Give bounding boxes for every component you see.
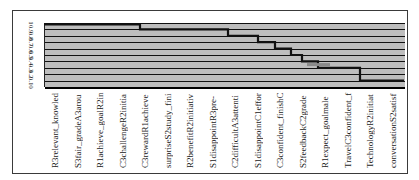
x-tick-label: TechnologyR2initiat (365, 90, 375, 168)
x-tick-label: R2benefitR2initiativ (185, 90, 195, 168)
step-line (44, 23, 406, 89)
x-tick-label: R1expect_goalmale (320, 90, 330, 168)
x-tick-label: surpriseS2study_fini (163, 90, 173, 168)
x-tick-label: C3challengeR2initia (118, 90, 128, 168)
x-tick-label: conversationS2satisf (388, 90, 398, 168)
x-tick-label: S1disappointR3pre- (208, 90, 218, 168)
x-tick-label: S3fair_gradeA3arou (73, 90, 83, 168)
x-tick-label: S2feedbackC2grade (298, 90, 308, 168)
x-tick-label: C3confident_finishC (275, 90, 285, 168)
x-tick-label: TravelC3confident_f (343, 90, 353, 168)
x-tick-label: S1disappointC1effor (253, 90, 263, 168)
x-tick-label: C3rewardR1achieve (140, 90, 150, 168)
x-tick-label: C2difficultA3attenti (230, 90, 240, 168)
x-tick-label: R3relevant_knowled (50, 90, 60, 168)
x-axis-labels: R3relevant_knowledS3fair_gradeA3arouR1ac… (44, 90, 404, 170)
y-tick-label: 0 (28, 78, 34, 96)
x-tick-label: R1achieve_goalR2in (95, 90, 105, 168)
step-line (44, 24, 404, 80)
